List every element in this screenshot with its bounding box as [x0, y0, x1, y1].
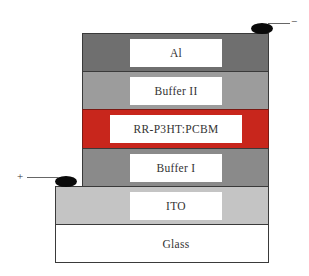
bottom-contact-wire — [27, 177, 59, 178]
layer-buffer-i-label: Buffer I — [130, 154, 222, 182]
positive-sign: + — [17, 171, 23, 182]
layer-active-label: RR-P3HT:PCBM — [110, 115, 242, 143]
layer-active: RR-P3HT:PCBM — [82, 109, 269, 149]
layer-buffer-i: Buffer I — [82, 148, 269, 187]
layer-glass-label: Glass — [130, 230, 222, 258]
layer-al-label: Al — [130, 39, 222, 67]
layer-al: Al — [82, 33, 269, 72]
top-contact-dot — [251, 23, 273, 34]
layer-buffer-ii: Buffer II — [82, 71, 269, 110]
layer-ito: ITO — [55, 186, 269, 225]
top-contact-wire — [268, 23, 290, 24]
layer-buffer-ii-label: Buffer II — [130, 77, 222, 105]
negative-sign: − — [291, 16, 297, 27]
layer-glass: Glass — [55, 224, 269, 263]
layer-ito-label: ITO — [130, 192, 222, 220]
